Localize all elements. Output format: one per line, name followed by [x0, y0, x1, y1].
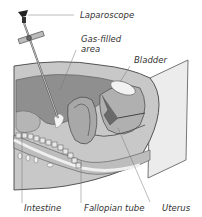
label-bladder: Bladder [134, 56, 167, 65]
label-laparoscope: Laparoscope [80, 11, 134, 20]
label-intestine: Intestine [24, 204, 61, 213]
label-gas-filled-line1: Gas-filled [81, 35, 121, 44]
label-fallopian-tube: Fallopian tube [84, 204, 144, 213]
laparoscopy-illustration [0, 0, 202, 217]
label-gas-filled-line2: area [81, 45, 100, 54]
label-uterus: Uterus [162, 204, 190, 213]
